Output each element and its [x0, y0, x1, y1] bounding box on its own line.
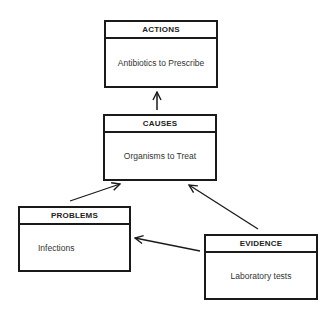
causes-box: CAUSES Organisms to Treat — [103, 114, 217, 181]
causes-content: Organisms to Treat — [105, 133, 215, 179]
arrow-evidence-to-problems — [135, 238, 200, 251]
actions-content: Antibiotics to Prescribe — [106, 39, 216, 86]
problems-title: PROBLEMS — [20, 208, 129, 225]
problems-box: PROBLEMS Infections — [18, 206, 131, 272]
evidence-content: Laboratory tests — [206, 253, 316, 298]
arrow-evidence-to-causes — [189, 185, 258, 229]
evidence-title: EVIDENCE — [206, 236, 316, 253]
causes-title: CAUSES — [105, 116, 215, 133]
arrow-problems-to-causes — [70, 184, 120, 201]
actions-box: ACTIONS Antibiotics to Prescribe — [104, 20, 218, 88]
evidence-box: EVIDENCE Laboratory tests — [204, 234, 318, 300]
actions-title: ACTIONS — [106, 22, 216, 39]
problems-content: Infections — [20, 225, 129, 270]
